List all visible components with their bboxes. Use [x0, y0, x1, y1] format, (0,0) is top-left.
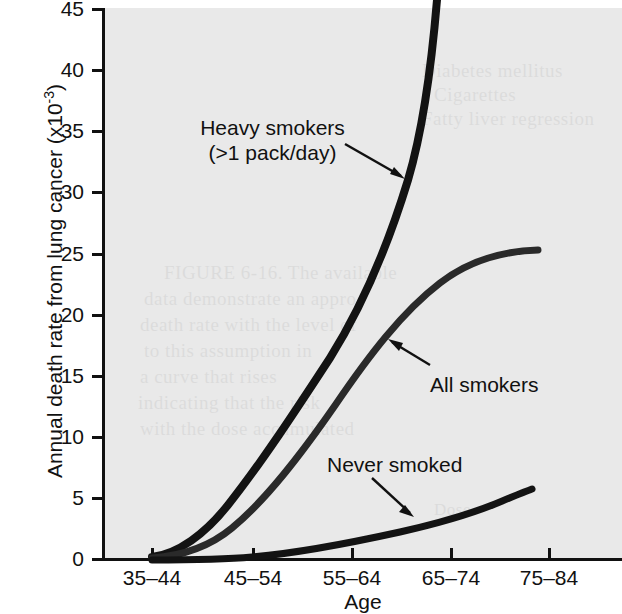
- plot-area: Diabetes mellitus Cigarettes Fatty liver…: [104, 8, 622, 560]
- ghost-text-line: a curve that rises: [140, 366, 277, 388]
- y-axis-title-exponent: -3: [41, 91, 57, 103]
- y-tick-label: 0: [72, 548, 84, 569]
- y-tick-20: [92, 314, 103, 317]
- y-tick-40: [92, 69, 103, 72]
- y-tick-label: 45: [61, 0, 84, 19]
- y-tick-30: [92, 191, 103, 194]
- x-tick-65-74: [450, 548, 453, 560]
- x-tick-label: 75–84: [520, 566, 578, 590]
- annotation-all-smokers: All smokers: [430, 372, 539, 397]
- y-tick-5: [92, 497, 103, 500]
- ghost-text-line: Fatty liver regression: [422, 108, 594, 130]
- annotation-never-smoked: Never smoked: [327, 452, 462, 477]
- y-tick-15: [92, 375, 103, 378]
- ghost-text-line: Diabetes mellitus: [422, 60, 563, 82]
- y-axis-title-suffix: ): [43, 84, 66, 91]
- ghost-text-line: death rate with the level of: [140, 314, 357, 336]
- ghost-text-line: Cigarettes: [434, 84, 516, 106]
- x-tick-label: 45–54: [224, 566, 282, 590]
- y-axis-title: Annual death rate from lung cancer (x10-…: [41, 21, 67, 541]
- x-axis-title: Age: [104, 590, 622, 614]
- annotation-heavy-smokers: Heavy smokers (>1 pack/day): [165, 115, 380, 165]
- ghost-text-line: indicating that the risk: [138, 392, 320, 414]
- y-tick-10: [92, 436, 103, 439]
- annotation-heavy-smokers-line2: (>1 pack/day): [165, 140, 380, 165]
- x-tick-label: 55–64: [323, 566, 381, 590]
- ghost-text-line: data demonstrate an appro: [144, 288, 356, 310]
- x-tick-label: 65–74: [422, 566, 480, 590]
- x-tick-55-64: [351, 548, 354, 560]
- x-tick-35-44: [151, 548, 154, 560]
- x-axis-line: [102, 558, 622, 561]
- ghost-text-line: FIGURE 6-16. The available: [164, 262, 397, 284]
- ghost-text-line: to this assumption in: [144, 340, 312, 362]
- x-tick-45-54: [252, 548, 255, 560]
- ghost-text-line: with the dose accumulated: [140, 418, 355, 440]
- y-tick-0: [92, 558, 103, 561]
- y-tick-35: [92, 130, 103, 133]
- x-tick-75-84: [548, 548, 551, 560]
- y-tick-label: 5: [72, 487, 84, 508]
- annotation-heavy-smokers-line1: Heavy smokers: [165, 115, 380, 140]
- ghost-text-line: Dose: [434, 500, 471, 520]
- y-tick-25: [92, 253, 103, 256]
- y-axis-line: [102, 8, 105, 561]
- y-axis-title-text: Annual death rate from lung cancer (x10: [43, 103, 66, 478]
- y-tick-45: [92, 8, 103, 11]
- x-tick-label: 35–44: [123, 566, 181, 590]
